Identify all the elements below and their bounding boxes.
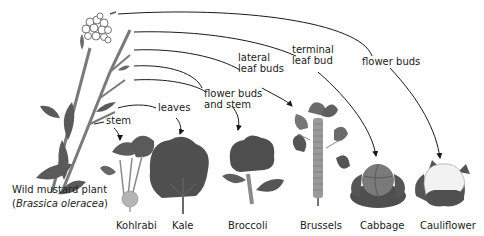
caption-cauliflower: Cauliflower xyxy=(420,220,476,231)
kohlrabi-illustration xyxy=(100,136,154,212)
wild-mustard-plant-illustration xyxy=(36,12,130,194)
label-lateral-leaf-buds: lateral leaf buds xyxy=(238,52,284,74)
label-leaves: leaves xyxy=(158,102,190,113)
kale-illustration xyxy=(150,137,209,214)
caption-kale: Kale xyxy=(172,220,193,231)
caption-kohlrabi: Kohlrabi xyxy=(116,220,157,231)
cauliflower-illustration xyxy=(415,160,470,206)
brussels-sprouts-illustration xyxy=(293,102,350,206)
label-flower-buds-and-stem: flower buds and stem xyxy=(204,88,262,110)
ancestor-name: Wild mustard plant xyxy=(12,184,107,195)
cabbage-illustration xyxy=(350,164,406,208)
caption-broccoli: Broccoli xyxy=(228,220,268,231)
label-stem: stem xyxy=(106,115,131,126)
caption-brussels: Brussels xyxy=(300,220,342,231)
connector-lines xyxy=(94,12,440,158)
broccoli-illustration xyxy=(222,135,284,204)
ancestor-scientific-name-wrapper: (Brassica oleracea) xyxy=(12,198,108,209)
caption-cabbage: Cabbage xyxy=(360,220,404,231)
diagram-canvas: stem leaves flower buds and stem lateral… xyxy=(0,0,484,236)
label-terminal-leaf-bud: terminal leaf bud xyxy=(292,44,334,66)
label-flower-buds: flower buds xyxy=(362,56,420,67)
ancestor-scientific-name: Brassica oleracea xyxy=(16,198,104,209)
